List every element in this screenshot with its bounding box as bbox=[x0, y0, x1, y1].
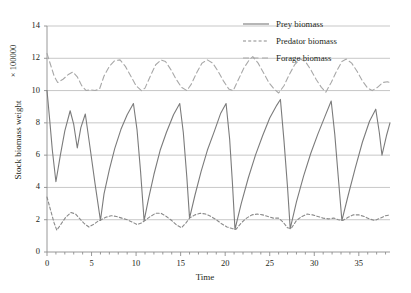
y-tick-label: 2 bbox=[18, 214, 40, 224]
x-tick-label: 0 bbox=[36, 258, 58, 268]
legend-label-prey: Prey biomass bbox=[276, 19, 323, 29]
y-tick-label: 10 bbox=[18, 85, 40, 95]
legend-label-forage: Forage biomass bbox=[276, 53, 331, 63]
x-tick-label: 5 bbox=[81, 258, 103, 268]
x-axis-title: Time bbox=[155, 272, 255, 282]
chart-legend: Prey biomass Predator biomass Forage bio… bbox=[243, 15, 403, 66]
y-axis-multiplier-label: × 100000 bbox=[8, 37, 18, 85]
y-tick-label: 4 bbox=[18, 181, 40, 191]
series-line-prey-biomass bbox=[47, 91, 390, 230]
x-tick-label: 35 bbox=[348, 258, 370, 268]
x-tick-label: 20 bbox=[214, 258, 236, 268]
y-tick-label: 14 bbox=[18, 20, 40, 30]
legend-item-prey: Prey biomass bbox=[243, 15, 403, 32]
legend-swatch-solid bbox=[243, 19, 269, 29]
y-tick-label: 0 bbox=[18, 246, 40, 256]
legend-swatch-dashed bbox=[243, 53, 269, 63]
legend-label-predator: Predator biomass bbox=[276, 36, 337, 46]
x-tick-label: 10 bbox=[125, 258, 147, 268]
legend-swatch-dotted bbox=[243, 36, 269, 46]
y-tick-label: 6 bbox=[18, 149, 40, 159]
data-series-group bbox=[47, 53, 390, 230]
x-tick-label: 15 bbox=[170, 258, 192, 268]
x-tick-label: 30 bbox=[303, 258, 325, 268]
y-tick-label: 8 bbox=[18, 117, 40, 127]
y-tick-label: 12 bbox=[18, 52, 40, 62]
x-tick-label: 25 bbox=[259, 258, 281, 268]
legend-item-forage: Forage biomass bbox=[243, 49, 403, 66]
legend-item-predator: Predator biomass bbox=[243, 32, 403, 49]
chart-figure: Stock biomass weight × 100000 Time 02468… bbox=[0, 0, 411, 293]
series-line-predator-biomass bbox=[47, 197, 390, 230]
